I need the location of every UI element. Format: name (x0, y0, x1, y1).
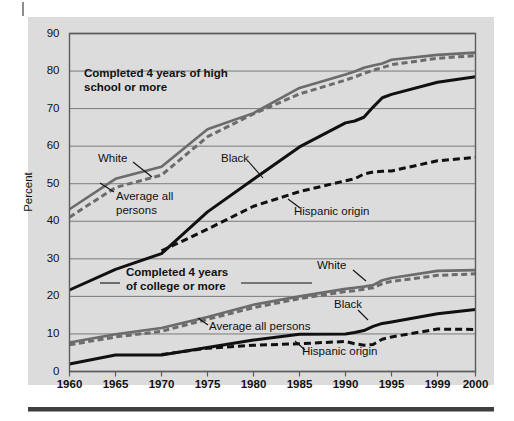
annotation-hs-hispanic: Hispanic origin (294, 205, 369, 219)
annotation-leader-line (358, 310, 368, 320)
x-axis-tick-label: 1980 (231, 378, 277, 390)
y-axis-tick-label: 30 (36, 252, 60, 264)
y-axis-tick-label: 40 (36, 214, 60, 226)
annotation-hs-white: White (98, 152, 127, 166)
annotation-college-black: Black (334, 298, 362, 312)
x-tick-marks-group (70, 372, 476, 377)
line-chart-svg (0, 0, 514, 421)
x-axis-tick-label: 1995 (369, 378, 415, 390)
y-axis-tick-label: 20 (36, 289, 60, 301)
annotation-leader-line (248, 161, 263, 178)
annotation-hs-black: Black (221, 152, 249, 166)
annotation-hs-average-line1: Average all (116, 190, 173, 204)
x-axis-tick-label: 1990 (323, 378, 369, 390)
x-axis-tick-label: 1960 (47, 378, 93, 390)
annotation-college-white: White (317, 259, 346, 273)
y-axis-tick-label: 70 (36, 102, 60, 114)
x-axis-tick-label: 1985 (277, 378, 323, 390)
annotation-leader-line (353, 270, 366, 281)
y-axis-tick-label: 50 (36, 177, 60, 189)
y-axis-label: Percent (22, 147, 34, 237)
y-axis-tick-label: 80 (36, 64, 60, 76)
annotation-college-hispanic: Hispanic origin (302, 345, 377, 359)
y-axis-tick-label: 90 (36, 27, 60, 39)
annotation-hs-average-line2: persons (116, 204, 157, 218)
y-axis-tick-label: 0 (36, 365, 60, 377)
x-axis-tick-label: 1975 (185, 378, 231, 390)
x-axis-tick-label: 1970 (139, 378, 185, 390)
x-axis-tick-label: 2000 (453, 378, 499, 390)
series-line (70, 310, 476, 364)
annotation-high-school-title-line2: school or more (84, 80, 167, 94)
annotation-high-school-title-line1: Completed 4 years of high (84, 66, 228, 80)
annotation-college-average: Average all persons (209, 320, 310, 334)
y-axis-tick-label: 10 (36, 327, 60, 339)
annotation-college-title-line1: Completed 4 years (126, 265, 228, 279)
x-axis-tick-label: 1965 (93, 378, 139, 390)
annotation-college-title-line2: of college or more (126, 279, 226, 293)
y-axis-tick-label: 60 (36, 139, 60, 151)
figure-root: Percent 0102030405060708090 196019651970… (0, 0, 514, 421)
